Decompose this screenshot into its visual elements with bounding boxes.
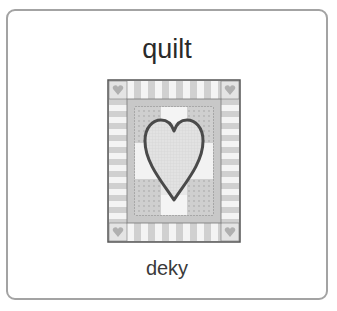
flashcard[interactable]: quilt — [6, 9, 328, 300]
translation-label: deky — [8, 257, 326, 280]
quilt-icon — [107, 79, 241, 243]
word-label: quilt — [8, 34, 326, 65]
